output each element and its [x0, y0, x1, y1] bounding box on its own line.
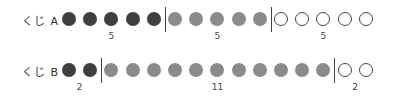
- ball-empty: [295, 12, 309, 26]
- ball-empty: [338, 12, 352, 26]
- ball-dark: [147, 12, 161, 26]
- ball-mid: [168, 63, 182, 77]
- lottery-b-row: くじ B 2112: [0, 51, 395, 97]
- ball-mid: [232, 63, 246, 77]
- ball-dark: [104, 12, 118, 26]
- ball-mid: [232, 12, 246, 26]
- ball-mid: [253, 63, 267, 77]
- group-divider: [101, 58, 102, 83]
- ball-mid: [168, 12, 182, 26]
- group-count: 11: [207, 82, 227, 92]
- ball-dark: [83, 63, 97, 77]
- ball-mid: [316, 63, 330, 77]
- group-divider: [271, 7, 272, 32]
- row-label: くじ B: [22, 63, 59, 79]
- ball-dark: [62, 12, 76, 26]
- group-count: 5: [207, 31, 227, 41]
- ball-mid: [274, 63, 288, 77]
- ball-dark: [62, 63, 76, 77]
- ball-mid: [253, 12, 267, 26]
- ball-mid: [126, 63, 140, 77]
- group-count: 5: [313, 31, 333, 41]
- group-count: 2: [345, 82, 365, 92]
- lottery-a-row: くじ A 555: [0, 0, 395, 48]
- ball-empty: [274, 12, 288, 26]
- ball-mid: [189, 63, 203, 77]
- ball-dark: [126, 12, 140, 26]
- ball-mid: [147, 63, 161, 77]
- ball-mid: [295, 63, 309, 77]
- ball-empty: [338, 63, 352, 77]
- ball-empty: [359, 12, 373, 26]
- group-count: 2: [70, 82, 90, 92]
- ball-mid: [210, 63, 224, 77]
- ball-mid: [104, 63, 118, 77]
- ball-empty: [316, 12, 330, 26]
- group-divider: [334, 58, 335, 83]
- group-divider: [165, 7, 166, 32]
- group-count: 5: [101, 31, 121, 41]
- ball-mid: [210, 12, 224, 26]
- row-label: くじ A: [22, 12, 59, 28]
- ball-empty: [359, 63, 373, 77]
- ball-dark: [83, 12, 97, 26]
- ball-mid: [189, 12, 203, 26]
